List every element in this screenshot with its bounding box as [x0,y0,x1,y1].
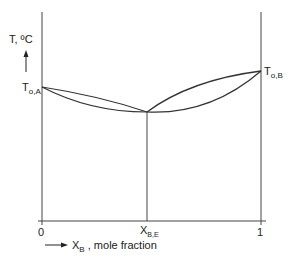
melting-point-b-label: To,B [264,65,283,80]
solidus-curve-b [147,71,261,112]
y-axis-label: T, ºC [9,33,33,45]
melting-point-a-label: To,A [22,81,41,96]
solidus-curve-a [42,87,147,112]
liquidus-curve-b [147,71,261,112]
y-axis-arrowhead-icon [24,50,29,57]
eutectic-composition-label: XB,E [140,224,159,238]
x-axis-arrowhead-icon [61,243,68,248]
x-tick-0: 0 [38,226,44,238]
x-axis-label: XB , mole fraction [72,239,157,254]
x-tick-1: 1 [257,226,263,238]
liquidus-curve-a [42,87,147,112]
phase-diagram: T, ºC To,A To,B 0 1 XB,E XB , mole fract… [0,0,293,260]
